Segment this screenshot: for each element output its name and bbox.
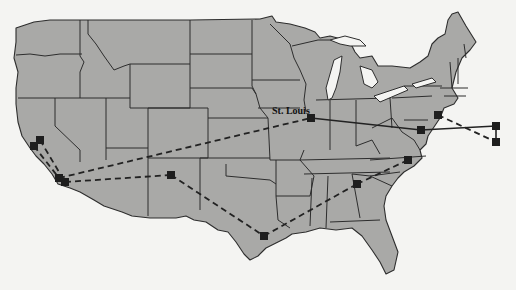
us-network-map: St. Louis	[0, 0, 516, 290]
node-offshore-1[interactable]	[492, 122, 500, 130]
label-st-louis: St. Louis	[272, 105, 310, 116]
node-southwest[interactable]	[167, 171, 175, 179]
node-offshore-2[interactable]	[492, 138, 500, 146]
node-la-2[interactable]	[61, 178, 69, 186]
land-outline	[14, 12, 476, 274]
node-nj[interactable]	[434, 111, 442, 119]
us-landmass	[14, 12, 476, 274]
node-sf-2[interactable]	[36, 136, 44, 144]
map-canvas: St. Louis	[0, 0, 516, 290]
node-atlanta[interactable]	[353, 180, 361, 188]
node-nc[interactable]	[404, 156, 412, 164]
node-dc[interactable]	[417, 126, 425, 134]
node-houston[interactable]	[260, 232, 268, 240]
